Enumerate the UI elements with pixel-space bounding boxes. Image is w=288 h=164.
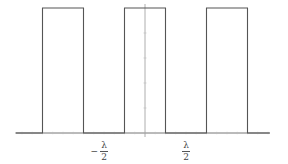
tick-label-pos-half-lambda: λ2 xyxy=(182,141,190,162)
tick-label-neg-half-lambda: −λ2 xyxy=(91,141,108,162)
denominator: 2 xyxy=(183,152,189,162)
square-wave-plot xyxy=(0,0,288,164)
axes xyxy=(16,4,270,137)
minus-sign: − xyxy=(91,147,99,156)
square-wave-line xyxy=(15,8,269,133)
numerator: λ xyxy=(100,141,108,152)
denominator: 2 xyxy=(101,152,107,162)
numerator: λ xyxy=(182,141,190,152)
